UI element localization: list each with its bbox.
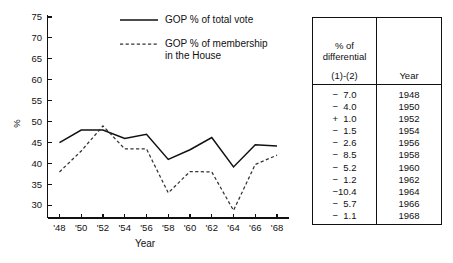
table-cell-differential: − 4.0 — [313, 101, 376, 113]
y-tick-label-75: 75 — [12, 12, 42, 22]
y-tick-label-60: 60 — [12, 75, 42, 85]
table-header-cell-year: Year — [377, 18, 441, 84]
y-tick-label-55: 55 — [12, 96, 42, 106]
legend-item-total-vote: GOP % of total vote — [120, 14, 300, 27]
y-tick-label-30: 30 — [12, 200, 42, 210]
legend-label-house-membership: GOP % of membership in the House — [165, 38, 268, 63]
legend-swatch-solid-icon — [120, 14, 158, 25]
table-cell-differential: − 8.5 — [313, 149, 376, 161]
table-column-year: 1948195019521954195619581960196219641966… — [377, 85, 441, 224]
table-cell-differential: − 7.0 — [313, 89, 376, 101]
legend-swatch-dashed-icon — [120, 38, 158, 49]
table-body: − 7.0− 4.0+ 1.0− 1.5− 2.6− 8.5− 5.2− 1.2… — [313, 85, 441, 224]
y-tick-label-65: 65 — [12, 54, 42, 64]
table-cell-differential: − 1.2 — [313, 174, 376, 186]
differential-table: % of differential (1)-(2) Year − 7.0− 4.… — [312, 17, 442, 225]
table-cell-year: 1962 — [377, 174, 441, 186]
y-tick-label-45: 45 — [12, 138, 42, 148]
table-cell-year: 1952 — [377, 113, 441, 125]
table-cell-year: 1960 — [377, 162, 441, 174]
table-header-year-label: Year — [399, 70, 418, 82]
table-cell-year: 1968 — [377, 210, 441, 222]
legend-label-total-vote: GOP % of total vote — [165, 14, 253, 27]
table-inner: % of differential (1)-(2) Year − 7.0− 4.… — [313, 18, 441, 224]
table-cell-differential: − 1.1 — [313, 210, 376, 222]
table-cell-differential: − 1.5 — [313, 125, 376, 137]
table-cell-year: 1964 — [377, 186, 441, 198]
table-cell-year: 1948 — [377, 89, 441, 101]
legend: GOP % of total vote GOP % of membership … — [120, 14, 300, 74]
table-column-differential: − 7.0− 4.0+ 1.0− 1.5− 2.6− 8.5− 5.2− 1.2… — [313, 85, 377, 224]
table-cell-differential: − 5.7 — [313, 198, 376, 210]
table-cell-differential: − 5.2 — [313, 162, 376, 174]
figure-root: 30354045505560657075 '48'50'52'54'56'58'… — [0, 0, 453, 263]
table-cell-differential: + 1.0 — [313, 113, 376, 125]
table-header-cell-differential: % of differential (1)-(2) — [313, 18, 377, 84]
y-axis-title: % — [11, 119, 22, 127]
table-header-diff-sub: (1)-(2) — [331, 70, 357, 82]
series-gop-total-vote — [59, 130, 277, 167]
x-tick-marks — [59, 214, 277, 219]
series-gop-house-membership — [59, 126, 277, 211]
y-tick-label-70: 70 — [12, 33, 42, 43]
table-cell-year: 1954 — [377, 125, 441, 137]
x-tick-label-1968: '68 — [263, 223, 291, 233]
table-header-diff-line2: differential — [323, 51, 367, 63]
table-header-row: % of differential (1)-(2) Year — [313, 18, 441, 85]
y-tick-label-35: 35 — [12, 180, 42, 190]
table-cell-differential: − 2.6 — [313, 137, 376, 149]
table-cell-year: 1966 — [377, 198, 441, 210]
table-cell-year: 1956 — [377, 137, 441, 149]
table-cell-year: 1958 — [377, 149, 441, 161]
table-cell-year: 1950 — [377, 101, 441, 113]
y-tick-marks — [48, 17, 53, 205]
table-header-diff-line1: % of — [335, 40, 354, 52]
table-cell-differential: −10.4 — [313, 186, 376, 198]
y-tick-label-40: 40 — [12, 159, 42, 169]
legend-item-house-membership: GOP % of membership in the House — [120, 38, 300, 63]
line-chart: 30354045505560657075 '48'50'52'54'56'58'… — [0, 0, 300, 263]
x-axis-title: Year — [0, 238, 290, 249]
